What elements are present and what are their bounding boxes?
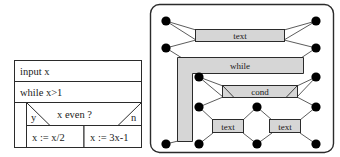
structogram-yes-branch-label: x := x/2 xyxy=(32,132,65,143)
graph-node xyxy=(311,102,320,111)
graph-node xyxy=(161,16,170,25)
graph-node xyxy=(311,139,320,148)
graph-node xyxy=(194,72,203,81)
figure-canvas: input x while x>1 y x even ? n x := x/2 … xyxy=(0,0,340,157)
graph-node xyxy=(311,72,320,81)
graph-node xyxy=(194,102,203,111)
graph-right-leaf-label: text xyxy=(278,122,292,132)
structogram-yes-label: y xyxy=(31,112,37,123)
graph-node xyxy=(161,43,170,52)
graph-node xyxy=(311,16,320,25)
graph-node xyxy=(161,139,170,148)
graph-node xyxy=(252,139,261,148)
graph-cond-label: cond xyxy=(251,87,269,97)
graph-top-text-label: text xyxy=(233,31,247,41)
graph-node xyxy=(194,139,203,148)
structogram-panel: input x while x>1 y x even ? n x := x/2 … xyxy=(15,61,142,148)
graph-node xyxy=(252,102,261,111)
graph-while-label: while xyxy=(230,61,250,71)
graph-left-leaf-label: text xyxy=(221,122,235,132)
structogram-condition-label: x even ? xyxy=(57,109,92,120)
structogram-input-label: input x xyxy=(20,66,50,77)
structogram-no-branch-label: x := 3x-1 xyxy=(90,132,129,143)
structogram-no-label: n xyxy=(131,112,137,123)
structogram-while-label: while x>1 xyxy=(20,87,62,98)
graph-node xyxy=(311,43,320,52)
graph-panel: while text cond text text xyxy=(151,5,334,153)
